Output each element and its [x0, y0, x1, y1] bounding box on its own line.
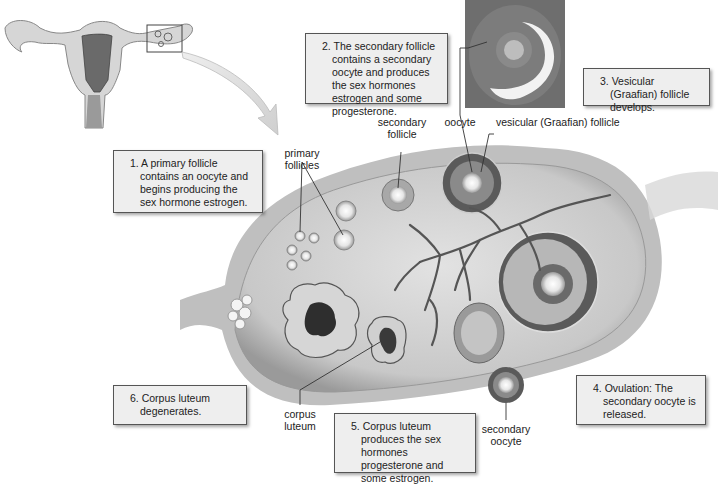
step-number: 5.	[351, 420, 360, 432]
step-text: Vesicular (Graafian) follicle develops.	[610, 75, 689, 113]
step-text: Corpus luteum produces the sex hormones …	[361, 420, 443, 484]
callout-step-6: 6. Corpus luteum degenerates.	[113, 385, 247, 425]
step-text: A primary follicle contains an oocyte an…	[140, 157, 248, 208]
step-number: 2.	[322, 40, 331, 52]
step-number: 6.	[130, 392, 139, 404]
label-secondary-oocyte: secondary oocyte	[478, 423, 534, 447]
step-text: The secondary follicle contains a second…	[332, 40, 435, 117]
step-number: 3.	[600, 75, 609, 87]
label-secondary-follicle: secondary follicle	[372, 116, 432, 140]
uterus-inset	[5, 21, 193, 129]
step-text: Ovulation: The secondary oocyte is relea…	[603, 382, 696, 420]
callout-step-5: 5. Corpus luteum produces the sex hormon…	[334, 413, 476, 473]
micrograph	[465, 0, 565, 108]
step-number: 1.	[130, 157, 139, 169]
label-vesicular-follicle: vesicular (Graafian) follicle	[496, 116, 666, 128]
callout-step-3: 3. Vesicular (Graafian) follicle develop…	[583, 68, 710, 106]
step-number: 4.	[593, 382, 602, 394]
label-primary-follicles: primary follicles	[276, 147, 328, 171]
label-oocyte: oocyte	[440, 116, 480, 128]
callout-step-2: 2. The secondary follicle contains a sec…	[305, 33, 448, 104]
zoom-arrow	[182, 52, 278, 135]
callout-step-1: 1. A primary follicle contains an oocyte…	[113, 150, 263, 213]
callout-step-4: 4. Ovulation: The secondary oocyte is re…	[576, 375, 706, 425]
label-corpus-luteum: corpus luteum	[276, 408, 324, 432]
step-text: Corpus luteum degenerates.	[140, 392, 210, 417]
